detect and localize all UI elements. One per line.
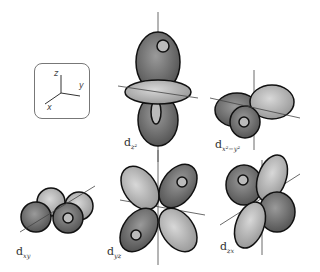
orbital-dyz (112, 150, 205, 265)
label-dx2-y2: dx²−y² (215, 138, 240, 153)
label-dxy: dxy (16, 245, 30, 260)
label-dyz: dyz (107, 245, 121, 260)
label-dzx: dzx (220, 240, 234, 255)
axis-label-z: z (54, 69, 58, 78)
axes-inset-frame (34, 63, 90, 119)
orbital-dxy (20, 186, 95, 233)
label-dz2: dz² (124, 136, 137, 151)
orbital-diagram (0, 0, 320, 272)
axis-label-x: x (47, 103, 52, 112)
axis-label-y: y (79, 81, 84, 90)
